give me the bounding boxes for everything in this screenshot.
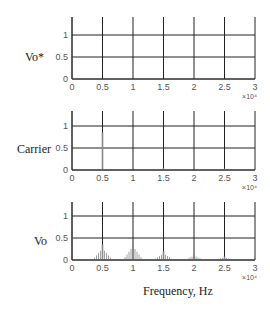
x-tick-label: 3 xyxy=(252,263,257,273)
x-tick-label: 2.5 xyxy=(218,263,231,273)
x-tick-label: 1.5 xyxy=(157,263,170,273)
y-tick-label: 1 xyxy=(63,211,68,221)
x-tick-label: 0.5 xyxy=(96,263,109,273)
x-multiplier-label: ×10⁴ xyxy=(242,274,257,281)
plot-area: 00.511.522.5300.51×10⁴ xyxy=(0,0,270,290)
y-tick-label: 0 xyxy=(63,255,68,265)
panel-vo: Vo 00.511.522.5300.51×10⁴ xyxy=(0,0,270,290)
x-axis-label: Frequency, Hz xyxy=(143,284,213,299)
y-tick-label: 0.5 xyxy=(55,233,68,243)
x-tick-label: 0 xyxy=(69,263,74,273)
x-tick-label: 2 xyxy=(191,263,196,273)
x-tick-label: 1 xyxy=(130,263,135,273)
